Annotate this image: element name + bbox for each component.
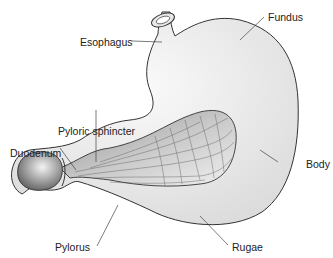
label-pylorus: Pylorus (55, 241, 90, 253)
label-rugae: Rugae (232, 241, 263, 253)
label-body: Body (306, 158, 331, 170)
label-duodenum: Duodenum (10, 147, 62, 159)
label-fundus: Fundus (268, 11, 303, 23)
stomach-outline (11, 12, 298, 225)
stomach-diagram: Esophagus Fundus Pyloric sphincter Duode… (0, 0, 333, 258)
label-pyloric-sphincter: Pyloric sphincter (58, 125, 136, 137)
label-esophagus: Esophagus (80, 36, 133, 48)
